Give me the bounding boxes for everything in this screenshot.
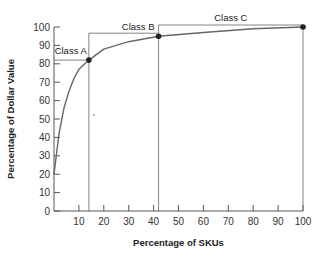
- y-tick-label: 100: [33, 22, 50, 33]
- x-tick-label: 20: [98, 216, 110, 227]
- y-axis-title: Percentage of Dollar Value: [5, 59, 16, 179]
- x-tick-label: 80: [248, 216, 260, 227]
- class-point: [156, 33, 162, 39]
- x-tick-label: 100: [295, 216, 312, 227]
- y-tick-label: 70: [39, 77, 51, 88]
- x-tick-label: 50: [173, 216, 185, 227]
- y-tick-label: 80: [39, 58, 51, 69]
- class-b-label: Class B: [122, 21, 155, 32]
- x-axis-title: Percentage of SKUs: [133, 237, 224, 248]
- y-tick-label: 30: [39, 150, 51, 161]
- y-tick-label: 60: [39, 95, 51, 106]
- class-b-bracket-line: [89, 33, 159, 60]
- x-tick-label: 30: [123, 216, 135, 227]
- abc-analysis-chart: 0102030405060708090100102030405060708090…: [0, 0, 327, 256]
- class-point: [86, 57, 92, 63]
- y-tick-label: 90: [39, 40, 51, 51]
- class-point: [300, 24, 306, 30]
- x-tick-label: 10: [73, 216, 85, 227]
- x-tick-label: 90: [273, 216, 285, 227]
- y-tick-label: 40: [39, 132, 51, 143]
- stray-mark: [93, 114, 95, 116]
- class-a-label: Class A: [55, 45, 88, 56]
- cumulative-curve: [54, 27, 303, 174]
- y-tick-label: 50: [39, 114, 51, 125]
- y-tick-label: 0: [44, 206, 50, 217]
- y-tick-label: 10: [39, 187, 51, 198]
- x-tick-label: 40: [148, 216, 160, 227]
- x-tick-label: 70: [223, 216, 235, 227]
- class-c-label: Class C: [214, 12, 247, 23]
- x-tick-label: 60: [198, 216, 210, 227]
- y-tick-label: 20: [39, 169, 51, 180]
